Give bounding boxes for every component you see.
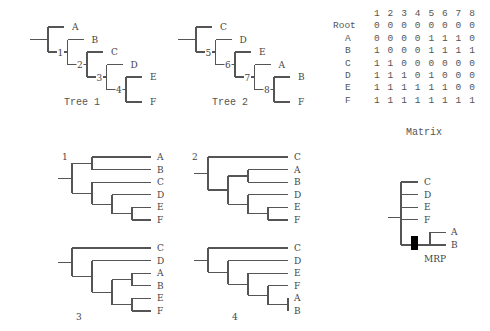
matrix-cell: 0 — [388, 33, 394, 44]
taxon-label: B — [92, 35, 99, 45]
taxon-label: D — [424, 190, 431, 200]
matrix-cell: 1 — [374, 82, 380, 93]
taxon-label: E — [157, 202, 164, 212]
taxon-label: B — [157, 165, 164, 175]
taxon-label: C — [220, 22, 227, 32]
matrix-cell: 1 — [401, 82, 407, 93]
matrix-cell: 0 — [401, 45, 407, 56]
matrix-column-header: 1 — [374, 8, 380, 19]
matrix-cell: 1 — [374, 58, 380, 69]
matrix-cell: 1 — [374, 70, 380, 81]
matrix-cell: 1 — [388, 70, 394, 81]
matrix-cell: 0 — [415, 58, 421, 69]
taxon-label: E — [294, 268, 301, 278]
matrix-row-label: E — [345, 82, 351, 93]
matrix-cell: 0 — [469, 20, 475, 31]
taxon-label: F — [294, 281, 300, 291]
taxon-label: D — [294, 190, 301, 200]
mp-tree-4: CDEFAB4 — [194, 243, 301, 322]
node-label: 5 — [206, 48, 212, 58]
node-label: 2 — [77, 60, 83, 70]
taxon-label: D — [157, 256, 164, 266]
character-matrix: 12345678Root00000000A00001110B10001111C1… — [333, 8, 475, 138]
taxon-label: D — [294, 256, 301, 266]
matrix-cell: 0 — [456, 70, 462, 81]
mp-tree-3: CDABEF3 — [58, 243, 164, 322]
taxon-label: F — [298, 97, 304, 107]
matrix-column-header: 4 — [415, 8, 421, 19]
taxon-label: A — [156, 268, 164, 278]
taxon-label: A — [450, 227, 458, 237]
matrix-row-label: Root — [333, 20, 356, 31]
matrix-row-label: D — [345, 70, 351, 81]
matrix-cell: 0 — [469, 82, 475, 93]
taxon-label: D — [157, 190, 164, 200]
matrix-cell: 0 — [442, 20, 448, 31]
mrp-tree: CDEFABMRP — [388, 177, 458, 264]
matrix-cell: 1 — [469, 45, 475, 56]
tree-caption: Tree 1 — [64, 97, 100, 108]
matrix-cell: 1 — [469, 95, 475, 106]
matrix-cell: 0 — [415, 70, 421, 81]
taxon-label: B — [451, 240, 458, 250]
taxon-label: E — [259, 47, 266, 57]
matrix-cell: 0 — [401, 58, 407, 69]
taxon-label: C — [157, 243, 164, 253]
taxon-label: B — [294, 306, 301, 316]
matrix-column-header: 6 — [442, 8, 448, 19]
matrix-cell: 0 — [415, 33, 421, 44]
mp-tree-number: 1 — [62, 152, 68, 162]
matrix-cell: 0 — [428, 20, 434, 31]
matrix-cell: 1 — [374, 95, 380, 106]
matrix-cell: 0 — [388, 20, 394, 31]
matrix-cell: 1 — [456, 95, 462, 106]
taxon-label: E — [424, 202, 431, 212]
mp-tree-1: ABCDEF1 — [58, 152, 164, 225]
matrix-cell: 0 — [401, 20, 407, 31]
matrix-cell: 1 — [442, 33, 448, 44]
mp-tree-number: 2 — [192, 152, 198, 162]
mrp-caption: MRP — [424, 254, 446, 264]
matrix-column-header: 8 — [469, 8, 475, 19]
matrix-cell: 0 — [415, 20, 421, 31]
matrix-cell: 1 — [415, 82, 421, 93]
matrix-row-label: F — [345, 95, 351, 106]
matrix-cell: 0 — [469, 70, 475, 81]
matrix-cell: 1 — [428, 95, 434, 106]
taxon-label: F — [424, 215, 430, 225]
taxon-label: B — [157, 281, 164, 291]
matrix-cell: 0 — [469, 33, 475, 44]
taxon-label: C — [424, 177, 431, 187]
matrix-column-header: 3 — [401, 8, 407, 19]
matrix-cell: 0 — [469, 58, 475, 69]
matrix-cell: 0 — [374, 33, 380, 44]
taxon-label: C — [157, 177, 164, 187]
matrix-cell: 1 — [442, 82, 448, 93]
taxon-label: A — [278, 60, 286, 70]
tree-caption: Tree 2 — [212, 97, 248, 108]
matrix-cell: 0 — [456, 82, 462, 93]
marked-branch-bar — [411, 236, 418, 250]
taxon-label: A — [156, 152, 164, 162]
matrix-cell: 1 — [388, 82, 394, 93]
matrix-cell: 0 — [456, 58, 462, 69]
matrix-cell: 1 — [388, 58, 394, 69]
matrix-cell: 1 — [388, 95, 394, 106]
mp-tree-number: 4 — [232, 312, 238, 322]
matrix-row-label: C — [345, 58, 351, 69]
matrix-cell: 0 — [415, 45, 421, 56]
matrix-cell: 1 — [428, 82, 434, 93]
mp-tree-number: 3 — [76, 312, 82, 322]
taxon-label: E — [294, 202, 301, 212]
matrix-cell: 0 — [456, 20, 462, 31]
matrix-cell: 1 — [401, 95, 407, 106]
matrix-column-header: 5 — [428, 8, 434, 19]
matrix-row-label: A — [345, 33, 351, 44]
taxon-label: E — [157, 293, 164, 303]
taxon-label: B — [294, 177, 301, 187]
matrix-cell: 1 — [456, 33, 462, 44]
taxon-label: F — [157, 215, 163, 225]
taxon-label: A — [293, 165, 301, 175]
node-label: 7 — [245, 73, 251, 83]
node-label: 1 — [58, 48, 64, 58]
